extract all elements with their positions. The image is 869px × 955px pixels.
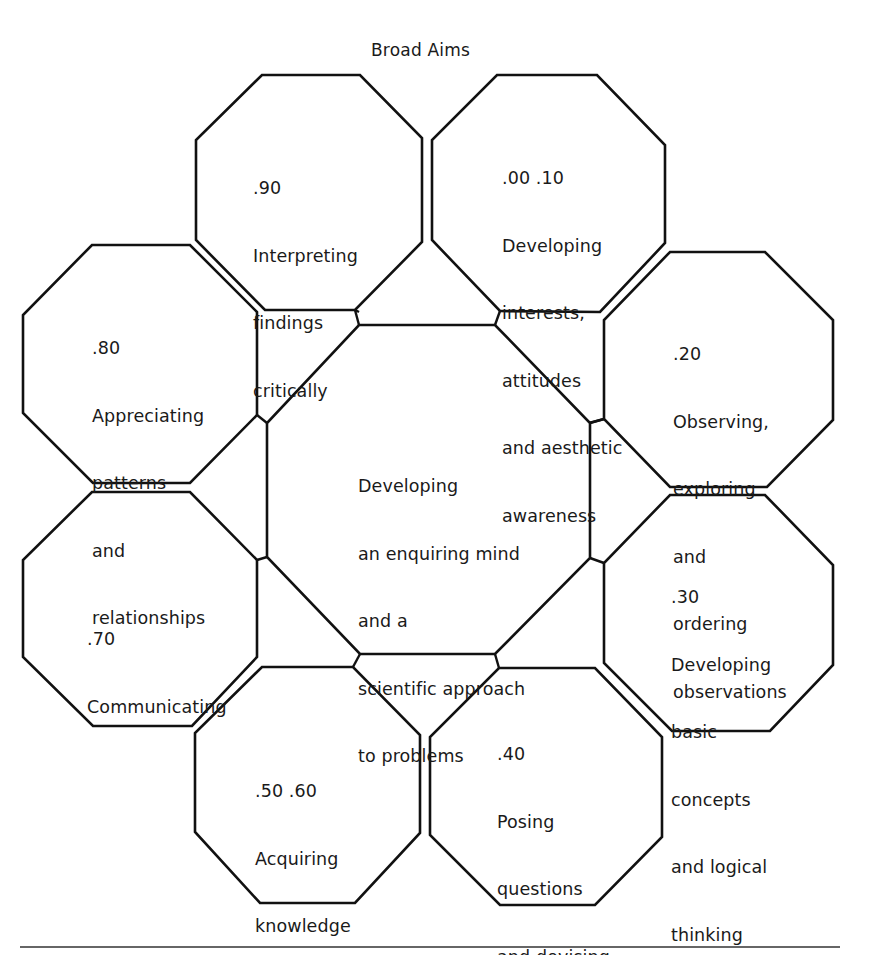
- aim-line: patterns: [92, 472, 205, 495]
- aim-line: attitudes: [502, 370, 622, 393]
- diagram-title: Broad Aims: [371, 40, 470, 60]
- aim-code: .50 .60: [255, 780, 366, 803]
- aim-line: and: [92, 540, 205, 563]
- aim-line: Appreciating: [92, 405, 205, 428]
- aim-line: relationships: [92, 607, 205, 630]
- aim-line: questions: [497, 878, 632, 901]
- aim-line: Posing: [497, 811, 632, 834]
- aim-line: findings: [253, 312, 358, 335]
- connector-left-lower: [257, 557, 267, 560]
- aim-line: Communicating: [87, 696, 227, 719]
- aim-line: critically: [253, 380, 358, 403]
- aim-line: basic: [671, 721, 771, 744]
- aim-code: .20: [673, 343, 787, 366]
- center-line: Developing: [358, 475, 525, 498]
- aim-code: .80: [92, 337, 205, 360]
- aim-line: Acquiring: [255, 848, 366, 871]
- aim-label-00-10: .00 .10 Developing interests, attitudes …: [502, 122, 622, 550]
- aim-line: interests,: [502, 302, 622, 325]
- aim-code: .30: [671, 586, 771, 609]
- aim-line: knowledge: [255, 915, 366, 938]
- aim-line: awareness: [502, 505, 622, 528]
- center-line: scientific approach: [358, 678, 525, 701]
- aim-line: and aesthetic: [502, 437, 622, 460]
- aim-code: .00 .10: [502, 167, 622, 190]
- center-line: and a: [358, 610, 525, 633]
- aim-label-50-60: .50 .60 Acquiring knowledge and learning…: [255, 735, 366, 955]
- aim-label-30: .30 Developing basic concepts and logica…: [671, 541, 771, 955]
- aim-line: and logical: [671, 856, 771, 879]
- aim-code: .40: [497, 743, 632, 766]
- aim-line: Developing: [671, 654, 771, 677]
- aim-label-40: .40 Posing questions and devising experi…: [497, 698, 632, 955]
- aim-line: exploring: [673, 478, 787, 501]
- aim-line: concepts: [671, 789, 771, 812]
- aim-code: .90: [253, 177, 358, 200]
- connector-top-right: [495, 311, 500, 325]
- aim-line: thinking: [671, 924, 771, 947]
- connector-right-lower: [590, 558, 604, 563]
- aim-line: and devising: [497, 946, 632, 955]
- aim-line: Observing,: [673, 411, 787, 434]
- aim-line: Interpreting: [253, 245, 358, 268]
- aim-label-90: .90 Interpreting findings critically: [253, 132, 358, 425]
- aim-line: Developing: [502, 235, 622, 258]
- center-line: an enquiring mind: [358, 543, 525, 566]
- aim-label-80: .80 Appreciating patterns and relationsh…: [92, 292, 205, 652]
